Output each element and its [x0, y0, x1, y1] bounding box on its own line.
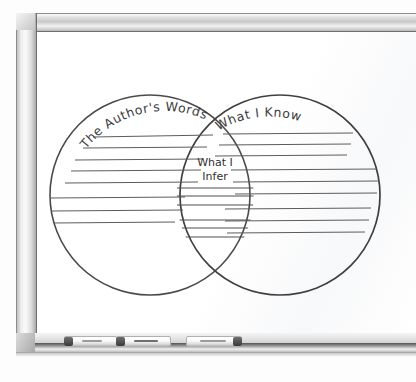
marker-cap-icon: [64, 337, 73, 346]
frame-left-rail: [16, 13, 37, 343]
marker-stripe: [82, 340, 102, 342]
whiteboard-scene: The Author's Words What I Know What I In…: [0, 0, 416, 382]
whiteboard: The Author's Words What I Know What I In…: [0, 0, 416, 382]
marker-3[interactable]: [186, 336, 242, 347]
venn-label-left-text: The Author's Words: [76, 99, 210, 152]
marker-stripe: [200, 340, 226, 342]
marker-cap-icon: [116, 337, 125, 346]
frame-corner: [16, 13, 35, 30]
marker-tray-shadow: [16, 352, 416, 357]
marker-stripe: [134, 340, 158, 342]
marker-2[interactable]: [116, 336, 171, 347]
venn-label-center-line1: What I: [197, 156, 233, 169]
right-circle-ruled-lines: [215, 133, 379, 233]
venn-label-right-text: What I Know: [213, 104, 304, 133]
left-circle-ruled-lines: [45, 135, 213, 223]
venn-label-right: What I Know: [213, 104, 304, 133]
venn-circle-right: [180, 95, 380, 295]
marker-1[interactable]: [64, 336, 117, 347]
marker-cap-icon: [233, 337, 242, 346]
marker-tray-left-cap: [16, 333, 35, 352]
venn-diagram: The Author's Words What I Know What I In…: [35, 30, 416, 333]
venn-label-left: The Author's Words: [76, 99, 210, 152]
venn-label-center-line2: Infer: [202, 170, 228, 183]
